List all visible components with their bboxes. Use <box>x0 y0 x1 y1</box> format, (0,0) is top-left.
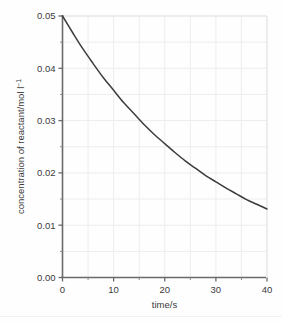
x-tick-label: 40 <box>262 284 273 295</box>
chart-figure: 0.000.010.020.030.040.05 010203040 time/… <box>0 0 282 323</box>
y-tick-label: 0.02 <box>37 167 56 178</box>
x-axis-title: time/s <box>152 299 178 310</box>
concentration-vs-time-plot: 0.000.010.020.030.040.05 010203040 time/… <box>0 0 282 323</box>
figure-bottom-edge <box>0 316 282 317</box>
y-tick-label: 0.01 <box>37 220 56 231</box>
y-tick-label: 0.04 <box>37 63 56 74</box>
x-tick-label: 20 <box>159 284 170 295</box>
x-tick-label: 30 <box>211 284 222 295</box>
y-axis-title: concentration of reactant/mol l−1 <box>15 79 26 214</box>
y-tick-label: 0.00 <box>37 272 56 283</box>
y-tick-label: 0.05 <box>37 10 56 21</box>
y-tick-label: 0.03 <box>37 115 56 126</box>
x-tick-label: 10 <box>108 284 119 295</box>
y-axis-tick-labels: 0.000.010.020.030.040.05 <box>37 10 56 283</box>
x-tick-label: 0 <box>60 284 65 295</box>
x-axis-tick-labels: 010203040 <box>60 284 272 295</box>
